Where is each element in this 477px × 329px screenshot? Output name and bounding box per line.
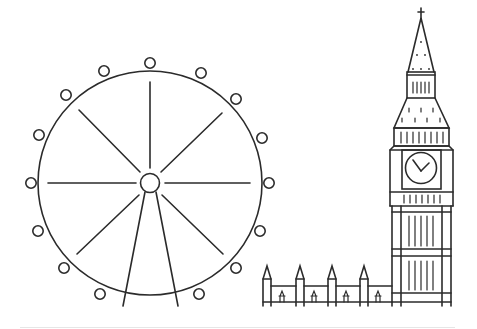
houses-of-parliament (263, 266, 392, 306)
parliament-spire-4 (360, 266, 368, 306)
wheel-hub (141, 174, 160, 193)
roof-dashes (402, 108, 440, 122)
parliament-spire-3 (328, 266, 336, 306)
parliament-spire-2 (296, 266, 304, 306)
ground-line (20, 327, 455, 328)
shaft-windows (409, 216, 433, 290)
wheel-spokes (48, 82, 250, 254)
belfry-louvers (413, 82, 429, 93)
colonnade-lines (401, 132, 443, 143)
clock-face (406, 153, 437, 184)
wheel-support-legs (123, 192, 178, 306)
clock-hands (413, 160, 429, 171)
parliament-small-arches (279, 291, 381, 302)
big-ben-clock-tower (390, 8, 453, 306)
clock-base-lines (404, 195, 440, 203)
parliament-spire-1 (263, 266, 271, 306)
london-eye-ferris-wheel (26, 58, 274, 306)
london-skyline-illustration (0, 0, 477, 329)
